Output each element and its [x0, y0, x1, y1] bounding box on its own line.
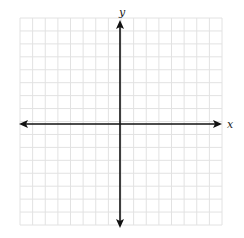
y-axis-label: y: [118, 6, 126, 19]
coordinate-plane: x y: [0, 0, 244, 238]
x-axis-label: x: [227, 118, 234, 131]
grid-lines: [20, 18, 222, 225]
